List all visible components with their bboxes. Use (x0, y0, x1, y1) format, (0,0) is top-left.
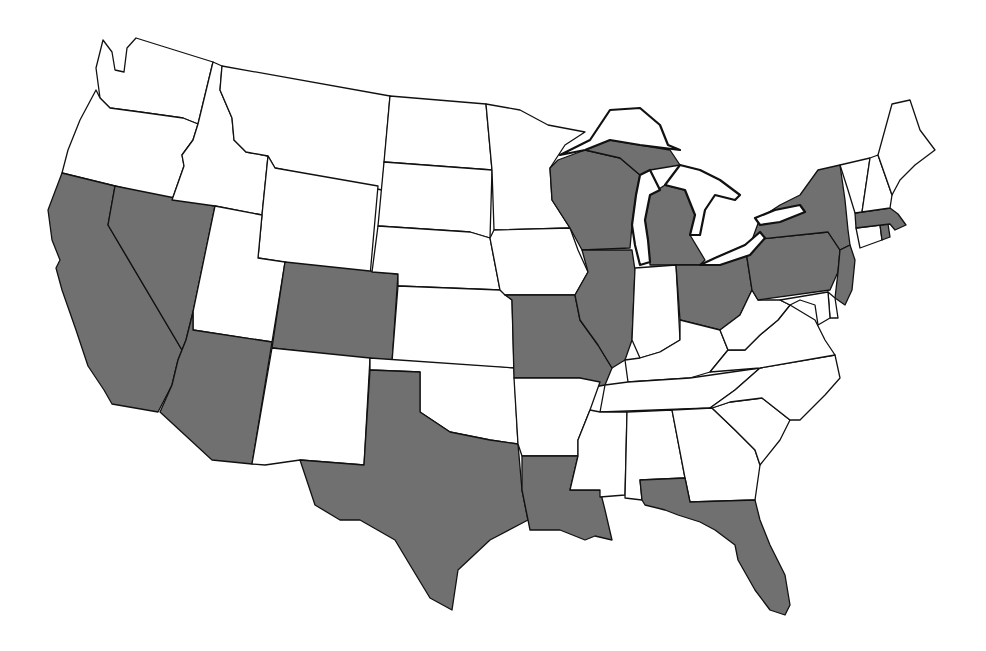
state-colorado[interactable]: Colorado (272, 262, 398, 362)
state-connecticut[interactable]: Connecticut (856, 225, 882, 248)
state-new-mexico[interactable]: New Mexico (252, 348, 370, 465)
us-states-map: Washington Oregon California Nevada Idah… (0, 0, 986, 651)
state-iowa[interactable]: Iowa (490, 228, 588, 295)
state-kansas[interactable]: Kansas (392, 286, 514, 368)
state-rhode-island[interactable]: Rhode Island (880, 224, 890, 240)
state-north-dakota[interactable]: North Dakota (384, 96, 492, 170)
state-maine[interactable]: Maine (878, 100, 935, 195)
